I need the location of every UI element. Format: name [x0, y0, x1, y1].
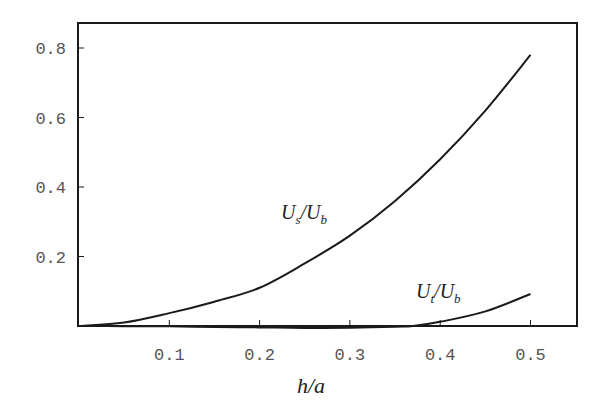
x-axis-title: h/a: [297, 373, 325, 398]
x-tick-label: 0.4: [425, 346, 456, 365]
x-tick-label: 0.3: [335, 346, 366, 365]
curve-ut-ub: [79, 294, 531, 328]
curve-us-ub: [79, 55, 531, 326]
chart: 0.20.40.60.8 0.10.20.30.40.5 h/a Us/Ub U…: [0, 0, 606, 409]
x-tick-label: 0.1: [154, 346, 185, 365]
y-tick-label: 0.4: [35, 179, 66, 198]
y-tick-label: 0.6: [35, 110, 66, 129]
y-tick-label: 0.8: [35, 40, 66, 59]
x-tick-label: 0.2: [244, 346, 275, 365]
data-curves: [79, 55, 531, 328]
plot-frame: [78, 23, 577, 326]
y-tick-label: 0.2: [35, 249, 66, 268]
x-tick-label: 0.5: [515, 346, 546, 365]
curve-label-ut-ub: Ut/Ub: [416, 280, 461, 306]
y-axis-ticks: 0.20.40.60.8: [35, 40, 84, 268]
curve-label-us-ub: Us/Ub: [281, 201, 328, 227]
